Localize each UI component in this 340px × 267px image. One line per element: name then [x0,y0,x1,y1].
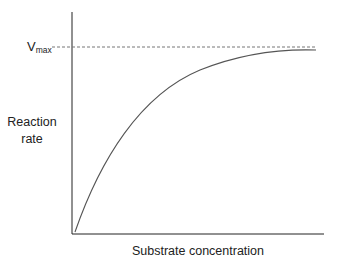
vmax-label-sub: max [36,45,52,55]
y-axis-label-line1: Reaction [0,114,64,131]
x-axis-label: Substrate concentration [72,245,324,258]
y-axis-label: Reaction rate [0,114,64,148]
rate-curve [75,50,316,232]
y-axis-label-line2: rate [0,131,64,148]
vmax-label-main: V [27,39,36,54]
vmax-label: Vmax [27,40,52,55]
